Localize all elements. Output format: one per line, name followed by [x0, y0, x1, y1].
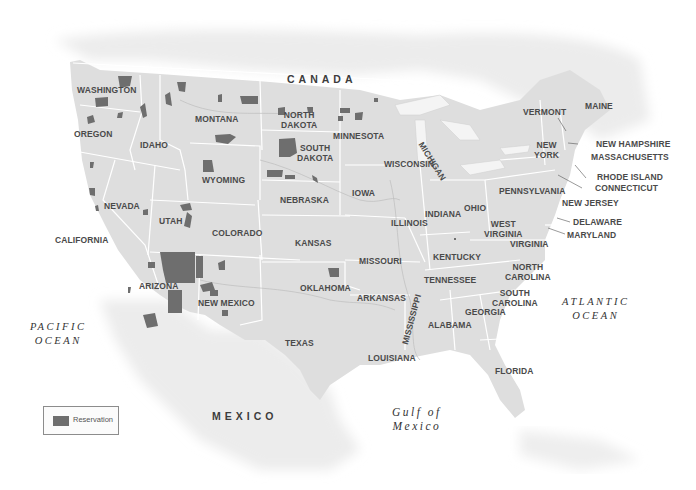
- label-mexico: MEXICO: [212, 410, 277, 422]
- caribbean-landmass: [520, 430, 640, 470]
- label-kansas: KANSAS: [295, 238, 332, 248]
- label-washington: WASHINGTON: [77, 85, 136, 95]
- label-west-virginia: WEST VIRGINIA: [484, 219, 523, 239]
- label-delaware: DELAWARE: [573, 217, 622, 227]
- label-south-carolina: SOUTH CAROLINA: [492, 288, 538, 308]
- label-massachusetts: MASSACHUSETTS: [591, 152, 669, 162]
- label-iowa: IOWA: [352, 188, 375, 198]
- label-florida: FLORIDA: [495, 366, 533, 376]
- label-nebraska: NEBRASKA: [280, 195, 329, 205]
- label-texas: TEXAS: [285, 338, 314, 348]
- label-louisiana: LOUISIANA: [368, 353, 416, 363]
- label-north-dakota: NORTH DAKOTA: [281, 110, 317, 130]
- label-arkansas: ARKANSAS: [357, 293, 406, 303]
- label-pacific-ocean: PACIFIC OCEAN: [30, 320, 86, 348]
- label-south-dakota: SOUTH DAKOTA: [297, 143, 333, 163]
- label-tennessee: TENNESSEE: [424, 275, 476, 285]
- label-oklahoma: OKLAHOMA: [300, 283, 351, 293]
- label-indiana: INDIANA: [425, 209, 461, 219]
- label-nevada: NEVADA: [104, 201, 140, 211]
- label-utah: UTAH: [159, 216, 182, 226]
- label-new-york: NEW YORK: [534, 140, 559, 160]
- label-montana: MONTANA: [195, 114, 239, 124]
- label-missouri: MISSOURI: [359, 256, 402, 266]
- label-rhode-island: RHODE ISLAND: [597, 172, 663, 182]
- label-canada: CANADA: [287, 73, 357, 85]
- map-legend: Reservation: [43, 406, 119, 435]
- label-new-hampshire: NEW HAMPSHIRE: [596, 139, 671, 149]
- label-connecticut: CONNECTICUT: [595, 183, 658, 193]
- label-alabama: ALABAMA: [428, 320, 472, 330]
- label-virginia: VIRGINIA: [510, 239, 549, 249]
- label-vermont: VERMONT: [523, 107, 566, 117]
- label-new-jersey: NEW JERSEY: [562, 198, 619, 208]
- reservation-swatch: [53, 416, 69, 426]
- label-new-mexico: NEW MEXICO: [198, 298, 255, 308]
- label-oregon: OREGON: [74, 129, 112, 139]
- label-minnesota: MINNESOTA: [333, 131, 384, 141]
- label-georgia: GEORGIA: [465, 307, 506, 317]
- label-illinois: ILLINOIS: [391, 218, 428, 228]
- label-gulf-of-mexico: Gulf of Mexico: [392, 405, 442, 433]
- label-ohio: OHIO: [464, 203, 486, 213]
- label-california: CALIFORNIA: [55, 235, 108, 245]
- label-north-carolina: NORTH CAROLINA: [505, 262, 551, 282]
- label-kentucky: KENTUCKY: [433, 252, 481, 262]
- label-maine: MAINE: [585, 101, 613, 111]
- label-arizona: ARIZONA: [139, 281, 178, 291]
- legend-label-reservation: Reservation: [73, 415, 113, 424]
- label-pennsylvania: PENNSYLVANIA: [499, 186, 566, 196]
- label-maryland: MARYLAND: [567, 230, 616, 240]
- label-idaho: IDAHO: [140, 140, 168, 150]
- label-colorado: COLORADO: [212, 228, 262, 238]
- label-wyoming: WYOMING: [202, 175, 245, 185]
- label-atlantic-ocean: ATLANTIC OCEAN: [562, 295, 629, 323]
